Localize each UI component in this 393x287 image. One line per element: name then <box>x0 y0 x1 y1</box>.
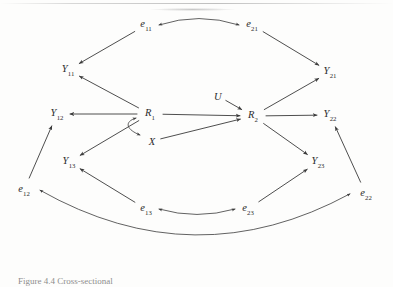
node-subscript: 21 <box>251 25 258 32</box>
node-X: X <box>149 136 156 147</box>
node-subscript: 13 <box>145 209 152 216</box>
node-subscript: 23 <box>247 209 254 216</box>
edge-e11-to-Y11 <box>79 31 134 63</box>
edge-e21-to-Y21 <box>263 32 319 66</box>
node-subscript: 11 <box>68 70 75 77</box>
edge-R1-to-Y13 <box>80 121 139 156</box>
node-e12: e12 <box>18 183 30 196</box>
edge-R2-to-Y23 <box>264 124 308 155</box>
edge-e23-to-Y23 <box>259 169 307 202</box>
node-U: U <box>214 91 222 102</box>
edge-e12-e22-corr <box>40 190 350 235</box>
edge-U-to-R2 <box>226 100 242 109</box>
node-Y23: Y23 <box>312 155 325 168</box>
node-e23: e23 <box>242 202 254 215</box>
node-e13: e13 <box>140 202 152 215</box>
edge-e13-to-Y13 <box>80 169 135 202</box>
edge-R1-to-R2 <box>163 114 240 115</box>
edge-R2-to-Y22 <box>266 115 317 116</box>
node-base: X <box>149 136 156 147</box>
node-R2: R2 <box>248 109 258 122</box>
node-e22: e22 <box>360 187 372 200</box>
edge-e13-e23-corr <box>159 209 235 215</box>
figure-caption: Figure 4.4 Cross-sectional <box>18 276 348 287</box>
node-Y12: Y12 <box>51 107 64 120</box>
node-R1: R1 <box>145 107 155 120</box>
node-Y22: Y22 <box>324 108 337 121</box>
node-e11: e11 <box>140 18 151 31</box>
node-Y11: Y11 <box>62 63 75 76</box>
edge-X-to-R2 <box>161 119 241 139</box>
path-diagram-graphic <box>0 0 393 287</box>
node-subscript: 12 <box>23 190 30 197</box>
edge-e11-e21-corr <box>159 19 239 26</box>
node-subscript: 22 <box>365 194 372 201</box>
node-subscript: 13 <box>69 162 76 169</box>
node-subscript: 22 <box>330 115 337 122</box>
node-subscript: 2 <box>255 116 258 123</box>
node-subscript: 21 <box>330 72 337 79</box>
node-e21: e21 <box>246 18 258 31</box>
edge-e22-to-Y22 <box>335 127 360 182</box>
edge-layer <box>29 19 360 236</box>
edge-R2-to-Y21 <box>264 78 318 109</box>
node-Y21: Y21 <box>324 65 337 78</box>
node-base: R <box>145 107 152 118</box>
edge-R1-to-Y11 <box>79 76 138 108</box>
node-base: U <box>214 91 222 102</box>
figure-container: e11e21Y11Y21Y12Y22R1R2UXY13Y23e12e22e13e… <box>0 0 393 287</box>
edge-e12-to-Y12 <box>29 126 52 178</box>
node-subscript: 12 <box>57 114 64 121</box>
node-base: R <box>248 109 255 120</box>
node-subscript: 1 <box>152 114 155 121</box>
node-Y13: Y13 <box>63 155 76 168</box>
node-subscript: 11 <box>145 25 152 32</box>
node-subscript: 23 <box>318 162 325 169</box>
